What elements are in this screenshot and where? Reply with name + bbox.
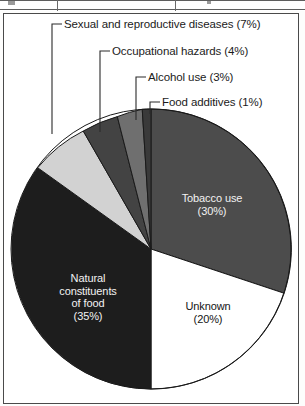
slice-label-line: Tobacco use	[157, 192, 267, 205]
callout-label-food-additives: Food additives (1%)	[162, 96, 262, 108]
scan-artifact-divider	[57, 0, 58, 11]
slice-label-value: (30%)	[157, 205, 267, 218]
slice-label-value: (35%)	[33, 310, 143, 323]
scan-artifact-mark	[8, 1, 15, 5]
slice-label-line: Unknown	[160, 300, 256, 313]
callout-label-alcohol-use: Alcohol use (3%)	[148, 71, 233, 83]
slice-label-natural-constituents-of-food: Natural constituents of food (35%)	[33, 272, 143, 322]
figure-border: Sexual and reproductive diseases (7%) Oc…	[3, 13, 299, 404]
scan-artifact-mark	[207, 1, 211, 4]
slice-label-unknown: Unknown (20%)	[160, 300, 256, 325]
leader-line-sexual-and-reproductive-diseases	[52, 24, 62, 134]
scan-artifact-rule	[0, 9, 305, 10]
slice-label-line: constituents	[33, 285, 143, 298]
pie-chart: Sexual and reproductive diseases (7%) Oc…	[4, 14, 298, 403]
scan-artifact-divider	[175, 0, 176, 11]
scan-artifact-rule	[0, 0, 305, 1]
slice-label-value: (20%)	[160, 313, 256, 326]
callout-label-occupational-hazards: Occupational hazards (4%)	[112, 45, 248, 57]
callout-label-sexual-and-reproductive-diseases: Sexual and reproductive diseases (7%)	[64, 18, 260, 30]
slice-label-tobacco-use: Tobacco use (30%)	[157, 192, 267, 217]
slice-label-line: of food	[33, 297, 143, 310]
slice-label-line: Natural	[33, 272, 143, 285]
scan-artifact-top	[0, 0, 305, 11]
figure-page: Sexual and reproductive diseases (7%) Oc…	[0, 0, 305, 406]
